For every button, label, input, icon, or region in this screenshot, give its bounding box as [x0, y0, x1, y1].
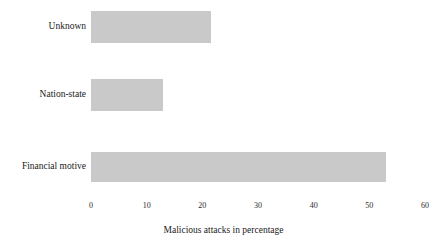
xtick-label-60: 60: [421, 202, 429, 210]
category-label-nation-state: Nation-state: [40, 90, 86, 100]
xtick-label-10: 10: [143, 202, 151, 210]
bar-chart: Unknown Nation-state Financial motive 0 …: [0, 0, 447, 248]
xtick-label-30: 30: [254, 202, 262, 210]
xtick-label-20: 20: [198, 202, 206, 210]
plot-area: Unknown Nation-state Financial motive 0 …: [0, 0, 447, 248]
category-label-financial-motive: Financial motive: [22, 162, 86, 172]
xtick-label-50: 50: [365, 202, 373, 210]
bar-unknown: [91, 11, 211, 43]
bar-financial-motive: [91, 152, 386, 182]
xtick-label-0: 0: [89, 202, 93, 210]
xtick-label-40: 40: [310, 202, 318, 210]
x-axis-title: Malicious attacks in percentage: [0, 226, 447, 236]
category-label-unknown: Unknown: [49, 22, 86, 32]
bar-nation-state: [91, 79, 163, 111]
